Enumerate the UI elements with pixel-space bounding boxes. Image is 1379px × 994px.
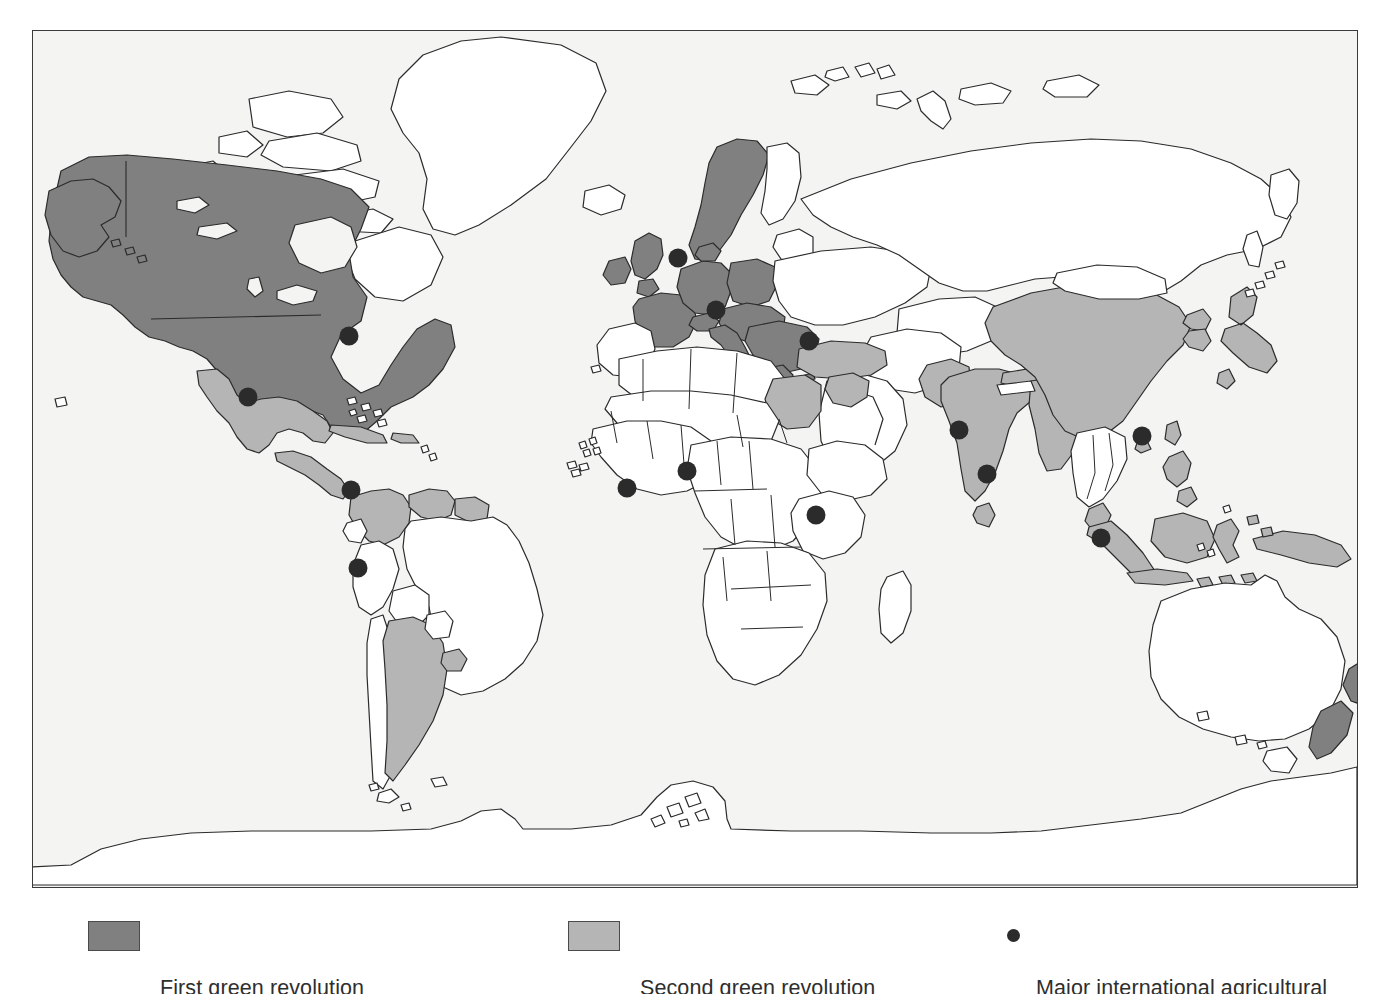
legend-label-research-centers: Major international agricultural researc… xyxy=(1036,918,1357,994)
legend-label-first-green-revolution: First green revolution (developed countr… xyxy=(160,918,369,994)
marker-italy-rome xyxy=(707,301,726,320)
legend-swatch-second-green-revolution xyxy=(568,921,620,951)
world-map-frame xyxy=(32,30,1358,888)
legend-line-1: Second green revolution xyxy=(640,974,875,994)
marker-philippines-irri xyxy=(1133,427,1152,446)
marker-colombia xyxy=(342,481,361,500)
legend-item-first-green-revolution: First green revolution (developed countr… xyxy=(88,918,369,994)
marker-indonesia-java xyxy=(1092,529,1111,548)
legend-dot-icon xyxy=(1007,929,1020,942)
marker-sri-lanka xyxy=(978,465,997,484)
marker-peru xyxy=(349,559,368,578)
legend-swatch-first-green-revolution xyxy=(88,921,140,951)
canary-dots xyxy=(591,365,601,373)
map-legend: First green revolution (developed countr… xyxy=(0,900,1379,994)
marker-india-icrisat xyxy=(950,421,969,440)
legend-label-second-green-revolution: Second green revolution (developing coun… xyxy=(640,918,875,994)
paraguay xyxy=(425,611,453,639)
legend-item-research-centers: Major international agricultural researc… xyxy=(1007,918,1357,994)
marker-kenya xyxy=(807,506,826,525)
marker-mexico xyxy=(239,388,258,407)
poland-first xyxy=(727,259,777,307)
legend-line-1: Major international agricultural xyxy=(1036,974,1357,994)
marker-united-states xyxy=(340,327,359,346)
legend-item-second-green-revolution: Second green revolution (developing coun… xyxy=(568,918,875,994)
marker-nigeria-iita xyxy=(678,462,697,481)
world-map-svg xyxy=(32,30,1357,887)
marker-syria-icarda xyxy=(800,332,819,351)
marker-europe-germany xyxy=(669,249,688,268)
map-figure: First green revolution (developed countr… xyxy=(0,0,1379,994)
marker-west-africa-warda xyxy=(618,479,637,498)
legend-line-1: First green revolution xyxy=(160,974,369,994)
galapagos-dot xyxy=(55,397,67,407)
